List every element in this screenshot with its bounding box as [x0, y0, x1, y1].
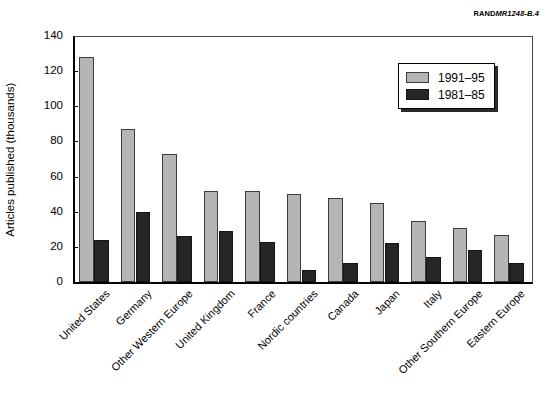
y-axis-tick-label: 120	[0, 65, 63, 77]
source-credit-prefix: RAND	[473, 9, 495, 18]
y-axis-tick-label: 0	[0, 276, 63, 288]
chart-figure: RANDMR1248-B.4 Articles published (thous…	[0, 0, 553, 397]
bar[interactable]	[302, 270, 317, 282]
x-axis-label-text: United States	[58, 288, 112, 342]
bar[interactable]	[426, 257, 441, 282]
legend-item[interactable]: 1991–95	[406, 69, 485, 86]
y-axis-tick-label: 100	[0, 101, 63, 113]
bar[interactable]	[79, 57, 94, 282]
x-axis-label-text: Italy	[422, 288, 444, 310]
y-axis-tick-label: 20	[0, 241, 63, 253]
y-axis-tick-label: 40	[0, 206, 63, 218]
bar-group	[287, 36, 317, 282]
x-axis-label-text: Japan	[373, 288, 402, 317]
legend-swatch-icon	[406, 72, 429, 83]
x-axis-label-text: France	[246, 288, 278, 320]
bar[interactable]	[94, 240, 109, 282]
y-axis-tick-label: 140	[0, 30, 63, 42]
bar-group	[79, 36, 109, 282]
legend-item-label: 1991–95	[438, 72, 485, 84]
legend-swatch-icon	[406, 89, 429, 100]
bar-group	[162, 36, 192, 282]
bar[interactable]	[453, 228, 468, 282]
bar-group	[370, 36, 400, 282]
x-axis-label-text: Other Western Europe	[109, 288, 194, 373]
y-axis-tick-label: 80	[0, 136, 63, 148]
legend-item[interactable]: 1981–85	[406, 86, 485, 103]
source-credit-code: MR1248-B.4	[495, 9, 539, 18]
bar[interactable]	[468, 250, 483, 282]
x-axis-label-text: Canada	[326, 288, 361, 323]
bar[interactable]	[385, 243, 400, 282]
chart-legend: 1991–951981–85	[398, 63, 495, 109]
x-axis-label-text: Germany	[114, 288, 154, 328]
y-axis-tick-label: 60	[0, 171, 63, 183]
legend-item-label: 1981–85	[438, 89, 485, 101]
source-credit: RANDMR1248-B.4	[473, 10, 539, 18]
